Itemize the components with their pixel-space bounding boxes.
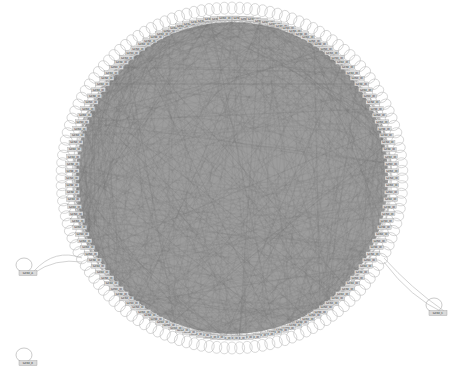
network-node: GENE_ID [68,147,82,151]
svg-text:GENE_ID: GENE_ID [382,213,393,216]
svg-text:GENE_ID: GENE_ID [351,277,362,280]
network-node: GENE_ID [385,176,399,180]
network-node: GENE_ID [319,47,333,51]
network-node: GENE_ID [362,94,376,98]
network-node: GENE_ID [319,305,333,309]
network-node: GENE_ID [137,310,151,314]
network-node: GENE_ID [109,65,123,69]
svg-text:GENE_ID: GENE_ID [376,121,387,124]
network-node: GENE_ID [369,245,383,249]
network-node: GENE_ID [71,133,85,137]
svg-text:GENE_ID: GENE_ID [127,302,138,305]
network-node: GENE_ID [66,197,80,201]
network-node: GENE_ID [105,71,119,75]
svg-text:GENE_ID: GENE_ID [97,83,108,86]
network-node: GENE_ID [91,88,105,92]
svg-text:GENE_A: GENE_A [23,272,34,275]
network-node: GENE_ID [84,100,98,104]
svg-text:GENE_ID: GENE_ID [132,48,143,51]
svg-text:GENE_ID: GENE_ID [101,277,112,280]
network-node: GENE_ID [384,190,398,194]
svg-text:GENE_ID: GENE_ID [356,83,367,86]
network-node: GENE_ID [336,292,350,296]
outlier-node: GENE_A [19,271,37,276]
network-node: GENE_ID [73,127,87,131]
network-node: GENE_ID [66,155,80,159]
network-node: GENE_ID [120,56,134,60]
network-node: GENE_ID [325,51,339,55]
svg-text:GENE_ID: GENE_ID [381,220,392,223]
svg-text:GENE_ID: GENE_ID [68,198,79,201]
network-node: GENE_ID [377,225,391,229]
network-diagram: GENE_AGENE_BGENE_C GENE_IDGENE_IDGENE_ID… [0,0,459,375]
svg-text:GENE_ID: GENE_ID [74,128,85,131]
svg-text:GENE_ID: GENE_ID [111,288,122,291]
network-node: GENE_ID [307,39,321,43]
network-node: GENE_ID [366,252,380,256]
network-node: GENE_ID [66,162,80,166]
svg-text:GENE_ID: GENE_ID [116,61,127,64]
network-node: GENE_ID [71,219,85,223]
svg-text:GENE_ID: GENE_ID [382,141,393,144]
network-node: GENE_ID [381,140,395,144]
svg-text:GENE_ID: GENE_ID [69,148,80,151]
network-node: GENE_ID [69,212,83,216]
svg-text:GENE_ID: GENE_ID [93,89,104,92]
svg-text:GENE_ID: GENE_ID [67,170,78,173]
svg-text:GENE_ID: GENE_ID [367,101,378,104]
network-node: GENE_ID [65,183,79,187]
svg-text:GENE_ID: GENE_ID [89,259,100,262]
network-node: GENE_ID [372,239,386,243]
network-node: GENE_ID [96,270,110,274]
svg-text:GENE_ID: GENE_ID [360,89,371,92]
network-node: GENE_ID [100,76,114,80]
svg-text:GENE_ID: GENE_ID [364,259,375,262]
network-node: GENE_ID [350,276,364,280]
network-node: GENE_ID [369,107,383,111]
svg-text:GENE_ID: GENE_ID [157,321,168,324]
network-node: GENE_ID [382,205,396,209]
svg-text:GENE_ID: GENE_ID [381,134,392,137]
network-node: GENE_ID [354,270,368,274]
svg-text:GENE_ID: GENE_ID [138,311,149,314]
svg-text:GENE_ID: GENE_ID [386,177,397,180]
network-node: GENE_ID [381,212,395,216]
network-node: GENE_ID [81,107,95,111]
svg-text:GENE_ID: GENE_ID [371,246,382,249]
svg-text:GENE_ID: GENE_ID [360,265,371,268]
svg-text:GENE_ID: GENE_ID [332,57,343,60]
svg-text:GENE_ID: GENE_ID [138,43,149,46]
svg-text:GENE_ID: GENE_ID [376,233,387,236]
svg-text:GENE_ID: GENE_ID [320,48,331,51]
svg-text:GENE_ID: GENE_ID [69,206,80,209]
outlier-node: GENE_B [19,361,37,366]
network-node: GENE_ID [100,276,114,280]
svg-text:GENE_ID: GENE_ID [72,220,83,223]
network-node: GENE_ID [345,71,359,75]
svg-text:GENE_ID: GENE_ID [385,156,396,159]
network-node: GENE_ID [131,305,145,309]
svg-text:GENE_ID: GENE_ID [151,36,162,39]
network-node: GENE_ID [330,296,344,300]
svg-text:GENE_ID: GENE_ID [342,288,353,291]
svg-text:GENE_ID: GENE_ID [85,253,96,256]
svg-text:GENE_ID: GENE_ID [70,213,81,216]
svg-text:GENE_ID: GENE_ID [373,114,384,117]
network-node: GENE_ID [325,301,339,305]
network-node: GENE_ID [379,133,393,137]
network-node: GENE_ID [69,140,83,144]
svg-text:GENE_ID: GENE_ID [326,302,337,305]
network-node: GENE_ID [330,56,344,60]
svg-text:GENE_ID: GENE_ID [79,240,90,243]
svg-text:GENE_ID: GENE_ID [364,95,375,98]
svg-text:GENE_ID: GENE_ID [82,246,93,249]
network-node: GENE_ID [125,301,139,305]
svg-text:GENE_ID: GENE_ID [116,293,127,296]
network-node: GENE_ID [78,113,92,117]
svg-text:GENE_ID: GENE_ID [347,282,358,285]
svg-text:GENE_ID: GENE_ID [151,318,162,321]
network-node: GENE_ID [379,219,393,223]
network-node: GENE_ID [384,162,398,166]
network-node: GENE_ID [385,183,399,187]
network-node: GENE_ID [218,16,232,20]
